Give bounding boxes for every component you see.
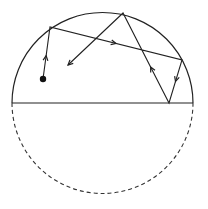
lower-semicircle-dashed-arc <box>12 103 193 194</box>
direction-arrows <box>43 40 179 82</box>
billiard-diagram <box>0 0 208 209</box>
ball-trajectory <box>43 13 182 103</box>
start-point-dot <box>40 76 46 82</box>
upper-semicircle-arc <box>12 13 193 103</box>
